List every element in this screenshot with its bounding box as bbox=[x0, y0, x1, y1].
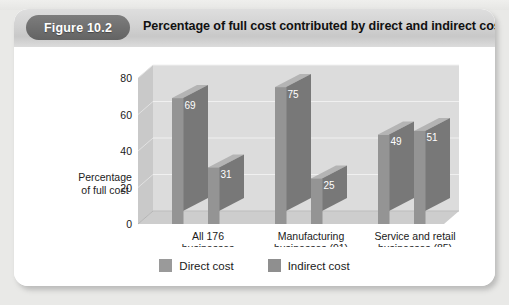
bar-front-face bbox=[311, 178, 323, 224]
figure-title: Percentage of full cost contributed by d… bbox=[143, 19, 485, 33]
page-background: Figure 10.2 Percentage of full cost cont… bbox=[0, 0, 509, 305]
cat-label-1-line1: All 176 bbox=[192, 230, 224, 242]
bar-front-face bbox=[275, 87, 287, 224]
legend-label-direct: Direct cost bbox=[179, 260, 233, 272]
chart-floor bbox=[138, 211, 459, 224]
bar-value-label: 75 bbox=[287, 89, 299, 100]
cat-label-2-line1: Manufacturing bbox=[278, 230, 345, 242]
legend-item-indirect: Indirect cost bbox=[268, 259, 350, 272]
y-axis-ticks: 80 60 40 20 0 bbox=[120, 72, 132, 230]
figure-body: Percentage of full cost bbox=[14, 47, 495, 286]
bar-chart-3d: 80 60 40 20 0 69 bbox=[14, 47, 495, 247]
cat-label-1-line2: businesses bbox=[182, 242, 235, 247]
legend-swatch-direct-icon bbox=[159, 259, 172, 272]
bar-front-face bbox=[172, 98, 184, 224]
bar-front-face bbox=[378, 135, 390, 224]
figure-number-badge: Figure 10.2 bbox=[26, 15, 130, 40]
bar-value-label: 49 bbox=[390, 136, 402, 147]
bar-value-label: 31 bbox=[220, 169, 232, 180]
y-tick-20: 20 bbox=[120, 182, 132, 194]
chart-legend: Direct cost Indirect cost bbox=[14, 259, 495, 272]
cat-label-2-line2: businesses (91) bbox=[274, 242, 348, 247]
bar-front-face bbox=[208, 167, 220, 224]
x-axis-labels: All 176 businesses Manufacturing busines… bbox=[182, 230, 456, 247]
bar-value-label: 69 bbox=[184, 100, 196, 111]
legend-swatch-indirect-icon bbox=[268, 259, 281, 272]
bar-value-label: 25 bbox=[323, 180, 335, 191]
figure-header: Figure 10.2 Percentage of full cost cont… bbox=[14, 9, 495, 47]
legend-label-indirect: Indirect cost bbox=[288, 260, 350, 272]
legend-item-direct: Direct cost bbox=[159, 259, 233, 272]
y-tick-0: 0 bbox=[126, 218, 132, 230]
bar-value-label: 51 bbox=[426, 132, 438, 143]
figure-card: Figure 10.2 Percentage of full cost cont… bbox=[14, 9, 495, 286]
bar-side-face bbox=[389, 122, 414, 211]
y-tick-60: 60 bbox=[120, 109, 132, 121]
cat-label-3-line2: businesses (85) bbox=[378, 242, 452, 247]
bar-front-face bbox=[414, 131, 426, 224]
cat-label-3-line1: Service and retail bbox=[374, 230, 455, 242]
y-tick-80: 80 bbox=[120, 72, 132, 84]
y-tick-40: 40 bbox=[120, 145, 132, 157]
